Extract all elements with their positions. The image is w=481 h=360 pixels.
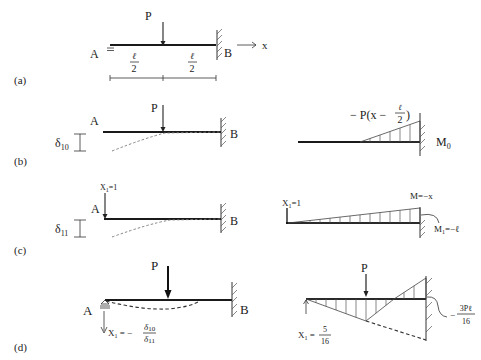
panel-a: (a) A P B x ℓ 2	[14, 9, 268, 87]
svg-text:16: 16	[321, 337, 329, 346]
deflection-marker: δ10	[55, 134, 86, 152]
segment-length-2: ℓ 2	[188, 51, 197, 74]
svg-text:2: 2	[190, 63, 195, 74]
fixed-support-icon	[232, 282, 237, 317]
x-axis-arrow-icon	[237, 42, 256, 48]
svg-text:3Pℓ: 3Pℓ	[460, 304, 472, 313]
svg-text:δ11: δ11	[55, 222, 68, 238]
moment-right-label: − 3Pℓ 16	[450, 304, 475, 326]
deflection-marker: δ11	[55, 220, 86, 238]
deflected-shape	[106, 301, 200, 309]
svg-text:X1 =: X1 =	[298, 330, 315, 341]
support-label-a: A	[91, 202, 100, 216]
reaction-expression: X1 = − δ10 δ11	[108, 322, 156, 345]
support-label-b: B	[230, 127, 238, 141]
panel-d: (d) P A X1 = − δ10 δ11	[14, 258, 475, 354]
support-label-b: B	[240, 302, 249, 317]
svg-text:δ11: δ11	[144, 334, 155, 345]
moment-expression: − P(x − ℓ 2 )	[350, 103, 410, 125]
svg-text:− P(x −: − P(x −	[350, 108, 386, 122]
panel-b: (b) A P B δ10	[14, 101, 451, 168]
support-label-b: B	[230, 214, 238, 228]
svg-text:−: −	[450, 310, 455, 320]
svg-text:): )	[406, 108, 410, 122]
panel-label-c: (c)	[14, 244, 27, 257]
load-label-p: P	[145, 9, 152, 23]
moment-end-label: M1=−ℓ	[434, 224, 459, 235]
svg-text:δ10: δ10	[55, 136, 69, 152]
load-label-p: P	[151, 101, 158, 115]
panel-label-a: (a)	[14, 74, 27, 87]
fixed-support-icon	[221, 203, 226, 233]
svg-text:ℓ: ℓ	[132, 51, 136, 61]
moment-diagram-m1: X1=1	[282, 198, 439, 238]
load-label-p: P	[151, 258, 158, 273]
support-label-b: B	[224, 46, 232, 60]
dimension-line	[110, 75, 216, 81]
svg-text:δ10: δ10	[144, 322, 156, 333]
svg-text:P: P	[361, 261, 368, 275]
panel-c: (c) X1=1 A B δ11 X1=1	[14, 183, 459, 257]
unit-load-label: X1=1	[100, 183, 117, 193]
deflected-shape	[112, 132, 220, 151]
moment-left-label: X1 = 5 16	[298, 325, 331, 346]
panel-label-b: (b)	[14, 155, 27, 168]
fixed-support-icon	[217, 29, 222, 60]
roller-support-icon	[107, 48, 114, 51]
svg-text:16: 16	[462, 317, 470, 326]
svg-text:ℓ: ℓ	[190, 51, 194, 61]
axis-label-x: x	[262, 39, 268, 51]
moment-line-label: M=−x	[410, 191, 433, 201]
panel-label-d: (d)	[14, 341, 27, 354]
svg-text:2: 2	[398, 114, 403, 125]
moment-label-m0: M0	[436, 135, 451, 151]
deflected-shape	[112, 219, 220, 237]
svg-text:ℓ: ℓ	[398, 103, 402, 112]
beam-analysis-figure: (a) A P B x ℓ 2	[0, 0, 481, 360]
svg-text:X1 = −: X1 = −	[108, 328, 132, 339]
support-label-a: A	[90, 114, 99, 128]
svg-text:5: 5	[323, 325, 327, 334]
fixed-support-icon	[221, 117, 226, 147]
segment-length-1: ℓ 2	[130, 51, 139, 74]
svg-text:2: 2	[132, 63, 137, 74]
support-label-a: A	[90, 47, 99, 61]
support-label-a: A	[83, 303, 93, 318]
svg-text:X1=1: X1=1	[282, 198, 301, 209]
